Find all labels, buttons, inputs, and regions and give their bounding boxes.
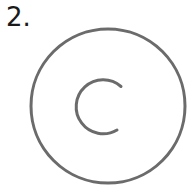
figure-diagram bbox=[0, 0, 195, 195]
outer-circle bbox=[31, 29, 185, 183]
inner-c-arc bbox=[76, 80, 121, 134]
